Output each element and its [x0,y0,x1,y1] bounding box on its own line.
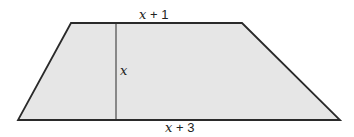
top-base-label: x + 1 [139,7,168,22]
height-variable: x [120,63,128,78]
trapezoid-shape [18,23,340,120]
height-label: x [120,63,128,78]
top-base-constant: + 1 [146,7,168,22]
trapezoid-diagram: x + 1 x x + 3 [0,0,354,137]
bottom-base-label: x + 3 [165,120,194,135]
bottom-base-constant: + 3 [172,120,194,135]
